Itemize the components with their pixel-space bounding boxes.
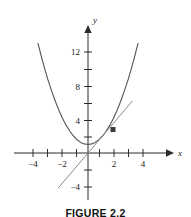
x-tick-label-2: 2 xyxy=(112,159,117,169)
y-tick-label-12: 12 xyxy=(71,47,80,57)
x-axis-arrow-icon xyxy=(166,149,174,156)
graph-plot: −4 −2 2 4 12 8 4 −4 x y xyxy=(0,0,191,217)
tangency-point-marker xyxy=(111,127,116,132)
y-tick-label-neg4: −4 xyxy=(70,182,80,192)
x-tick-label-4: 4 xyxy=(141,159,146,169)
y-tick-label-8: 8 xyxy=(76,82,81,92)
x-tick-label-neg2: −2 xyxy=(57,159,67,169)
y-axis-label: y xyxy=(92,15,97,25)
x-tick-label-neg4: −4 xyxy=(28,159,38,169)
axis-titles-group: x y xyxy=(92,15,182,158)
figure-caption: FIGURE 2.2 xyxy=(0,207,191,217)
x-axis-label: x xyxy=(177,148,182,158)
y-axis-arrow-icon xyxy=(84,25,91,33)
y-tick-label-4: 4 xyxy=(76,116,81,126)
figure-container: −4 −2 2 4 12 8 4 −4 x y FIGURE 2.2 xyxy=(0,0,191,217)
axes-group xyxy=(14,25,174,200)
tangent-line xyxy=(58,101,132,188)
